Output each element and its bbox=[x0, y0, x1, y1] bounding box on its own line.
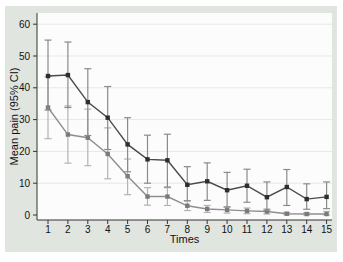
figure-panel: 0102030405060123456789101112131415 Times… bbox=[5, 6, 337, 252]
series-2-gray-marker-8 bbox=[185, 204, 189, 208]
series-2-gray-marker-10 bbox=[225, 208, 229, 212]
series-1-dark-marker-4 bbox=[106, 115, 110, 119]
series-2-gray-marker-7 bbox=[165, 194, 169, 198]
series-1-dark-marker-13 bbox=[285, 185, 289, 189]
series-2-gray-marker-5 bbox=[125, 174, 129, 178]
series-1-dark-marker-2 bbox=[66, 73, 70, 77]
series-1-dark-marker-8 bbox=[185, 183, 189, 187]
series-2-gray-marker-13 bbox=[285, 212, 289, 216]
series-2-gray-marker-2 bbox=[66, 132, 70, 136]
y-tick-label-50: 50 bbox=[19, 51, 31, 62]
y-tick-label-0: 0 bbox=[24, 210, 30, 221]
y-axis-title: Mean pain (95% CI) bbox=[8, 66, 21, 168]
series-2-gray-marker-11 bbox=[245, 209, 249, 213]
series-1-dark-marker-15 bbox=[324, 195, 328, 199]
series-1-dark-marker-5 bbox=[125, 142, 129, 146]
y-tick-label-20: 20 bbox=[19, 146, 31, 157]
mean-pain-line-chart: 0102030405060123456789101112131415 bbox=[5, 6, 337, 252]
series-1-dark-marker-12 bbox=[265, 195, 269, 199]
x-axis-title: Times bbox=[37, 233, 332, 245]
series-1-dark-marker-10 bbox=[225, 188, 229, 192]
series-2-gray-marker-3 bbox=[86, 136, 90, 140]
series-1-dark-marker-3 bbox=[86, 100, 90, 104]
series-1-dark-marker-6 bbox=[145, 157, 149, 161]
y-tick-label-10: 10 bbox=[19, 178, 31, 189]
y-tick-label-40: 40 bbox=[19, 82, 31, 93]
series-1-dark-marker-1 bbox=[46, 74, 50, 78]
series-2-gray-marker-6 bbox=[145, 194, 149, 198]
y-tick-label-60: 60 bbox=[19, 19, 31, 30]
series-1-dark-marker-7 bbox=[165, 158, 169, 162]
series-2-gray-marker-9 bbox=[205, 207, 209, 211]
series-2-gray-marker-15 bbox=[324, 212, 328, 216]
series-1-dark-marker-9 bbox=[205, 179, 209, 183]
series-1-dark-marker-14 bbox=[305, 197, 309, 201]
series-1-dark-marker-11 bbox=[245, 184, 249, 188]
y-tick-label-30: 30 bbox=[19, 114, 31, 125]
series-2-gray-marker-4 bbox=[106, 152, 110, 156]
series-2-gray-marker-14 bbox=[305, 212, 309, 216]
